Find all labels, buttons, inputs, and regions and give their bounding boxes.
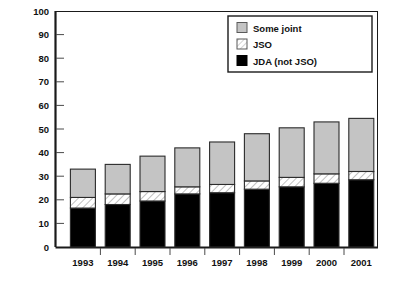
y-tick-label: 100 — [33, 6, 49, 17]
y-tick-label: 30 — [38, 171, 49, 182]
bar-segment-some-joint — [244, 134, 269, 181]
bar-group-1999[interactable] — [279, 128, 304, 247]
y-tick-label: 10 — [38, 218, 49, 229]
bar-segment-jso — [175, 187, 200, 194]
x-tick-label: 1996 — [177, 257, 198, 268]
x-tick-label: 1995 — [142, 257, 164, 268]
y-tick-label: 50 — [38, 124, 49, 135]
x-tick-label: 1999 — [281, 257, 302, 268]
bar-segment-some-joint — [279, 128, 304, 178]
bar-segment-some-joint — [70, 169, 95, 197]
x-tick-label: 1998 — [246, 257, 267, 268]
y-tick-label: 80 — [38, 53, 49, 64]
bar-segment-jso — [349, 171, 374, 179]
y-tick-label: 90 — [38, 29, 49, 40]
legend-swatch-some-joint — [237, 23, 247, 33]
bar-segment-some-joint — [210, 142, 235, 184]
chart-figure: 100 90 80 70 60 50 40 30 20 10 0 — [0, 0, 393, 287]
bar-segment-jda — [140, 201, 165, 247]
bar-segment-jda — [70, 208, 95, 247]
bar-segment-jda — [210, 193, 235, 247]
legend: Some joint JSO JDA (not JSO) — [228, 16, 372, 72]
y-tick-label: 40 — [38, 147, 49, 158]
x-tick-label: 2001 — [351, 257, 373, 268]
bar-segment-jso — [279, 177, 304, 186]
legend-swatch-jda — [237, 56, 247, 66]
legend-item-jso[interactable]: JSO — [237, 39, 272, 50]
x-tick-label: 2000 — [316, 257, 337, 268]
bar-segment-jso — [70, 197, 95, 208]
bar-group-2001[interactable] — [349, 118, 374, 247]
bar-group-1996[interactable] — [175, 148, 200, 247]
bar-segment-some-joint — [314, 122, 339, 174]
legend-label-jda: JDA (not JSO) — [253, 56, 317, 67]
bar-group-1998[interactable] — [244, 134, 269, 247]
bar-group-1995[interactable] — [140, 156, 165, 247]
bar-segment-jso — [105, 194, 130, 205]
bar-segment-some-joint — [349, 118, 374, 171]
bar-segment-jso — [314, 174, 339, 183]
bar-group-2000[interactable] — [314, 122, 339, 247]
chart-svg: 100 90 80 70 60 50 40 30 20 10 0 — [0, 0, 393, 287]
bar-segment-some-joint — [175, 148, 200, 187]
y-tick-label: 0 — [44, 242, 49, 253]
legend-label-some-joint: Some joint — [253, 23, 302, 34]
x-tick-label: 1993 — [72, 257, 93, 268]
x-axis-tick-labels: 1993 1994 1995 1996 1997 1998 1999 2000 … — [72, 257, 372, 268]
x-tick-label: 1997 — [212, 257, 233, 268]
bar-segment-jda — [244, 189, 269, 247]
x-tick-label: 1994 — [107, 257, 129, 268]
bar-segment-some-joint — [105, 164, 130, 194]
bar-segment-jso — [140, 192, 165, 201]
bar-segment-jda — [175, 194, 200, 247]
bar-segment-some-joint — [140, 156, 165, 191]
legend-label-jso: JSO — [253, 39, 272, 50]
bar-segment-jda — [314, 183, 339, 247]
bar-group-1993[interactable] — [70, 169, 95, 247]
legend-swatch-jso — [237, 39, 247, 49]
y-tick-label: 60 — [38, 100, 49, 111]
y-tick-label: 70 — [38, 76, 49, 87]
bar-group-1994[interactable] — [105, 164, 130, 247]
y-tick-label: 20 — [38, 194, 49, 205]
bar-segment-jda — [349, 180, 374, 247]
bar-segment-jso — [244, 181, 269, 189]
bar-group-1997[interactable] — [210, 142, 235, 247]
bar-segment-jso — [210, 184, 235, 192]
bar-segment-jda — [279, 187, 304, 247]
bar-segment-jda — [105, 205, 130, 247]
legend-item-some-joint[interactable]: Some joint — [237, 23, 302, 34]
